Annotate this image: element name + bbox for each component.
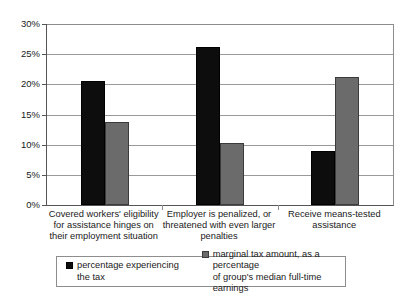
category-label-0: Covered workers' eligibility for assista… [46, 209, 161, 243]
y-axis-tick [42, 115, 47, 116]
y-axis-label: 25% [21, 49, 40, 59]
bar-series-0-group-2 [311, 151, 335, 205]
bar-series-0-group-1 [196, 47, 220, 205]
y-axis-tick [42, 175, 47, 176]
scan-bleed-text [0, 0, 405, 9]
gridline [47, 24, 393, 25]
plot-area: 0%5%10%15%20%25%30% [46, 24, 394, 206]
y-axis-label: 20% [21, 79, 40, 89]
category-label-2: Receive means-tested assistance [277, 209, 392, 231]
y-axis-tick [42, 145, 47, 146]
y-axis-label: 30% [21, 19, 40, 29]
legend-label-0: percentage experiencing the tax [77, 260, 179, 283]
legend-swatch-icon-0 [66, 262, 73, 269]
category-label-1: Employer is penalized, or threatened wit… [161, 209, 276, 243]
y-axis-tick [42, 54, 47, 55]
bar-series-1-group-2 [335, 77, 359, 205]
bar-chart: 0%5%10%15%20%25%30% Covered workers' eli… [0, 9, 405, 297]
legend-label-1: marginal tax amount, as a percentage of … [213, 249, 345, 294]
y-axis-tick [42, 205, 47, 206]
legend-item-1: marginal tax amount, as a percentage of … [202, 249, 345, 294]
y-axis-label: 5% [26, 170, 40, 180]
bar-series-1-group-0 [105, 122, 129, 205]
bar-series-1-group-1 [220, 143, 244, 205]
chart-legend: percentage experiencing the tax marginal… [56, 256, 346, 287]
gridline [47, 54, 393, 55]
legend-item-0: percentage experiencing the tax [66, 260, 195, 283]
y-axis-tick [42, 84, 47, 85]
y-axis-label: 10% [21, 140, 40, 150]
bar-series-0-group-0 [81, 81, 105, 205]
y-axis-label: 15% [21, 110, 40, 120]
y-axis-tick [42, 24, 47, 25]
y-axis-label: 0% [26, 200, 40, 210]
legend-swatch-icon-1 [202, 251, 209, 258]
